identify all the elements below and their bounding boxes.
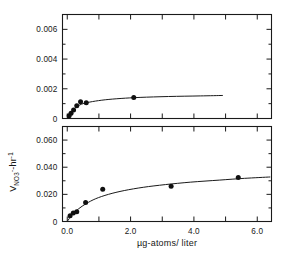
lower-panel-frame bbox=[63, 127, 272, 222]
y-axis-title-subscript: NO bbox=[13, 176, 20, 186]
y-ticklabel: 0.006 bbox=[36, 25, 58, 34]
y-ticklabel: 0.002 bbox=[36, 85, 58, 94]
data-point bbox=[74, 209, 79, 214]
y-ticklabel: 0.004 bbox=[36, 55, 58, 64]
data-point bbox=[131, 95, 136, 100]
y-axis-title: VNO3--hr-1 bbox=[7, 152, 20, 192]
data-point bbox=[100, 187, 105, 192]
lower-panel: 00.0200.0400.060 0.02.04.06.0 bbox=[36, 127, 271, 236]
data-point bbox=[74, 103, 79, 108]
lower-panel-data-points bbox=[68, 175, 241, 218]
data-point bbox=[78, 99, 83, 104]
y-axis-title-unit-exponent: -1 bbox=[7, 152, 14, 158]
y-ticklabel: 0 bbox=[53, 115, 58, 124]
upper-panel-fitted-curve bbox=[67, 95, 222, 118]
x-ticklabel: 4.0 bbox=[188, 227, 200, 236]
lower-panel-fitted-curve bbox=[67, 177, 270, 222]
y-ticklabel: 0 bbox=[53, 218, 58, 227]
y-ticklabel: 0.020 bbox=[36, 190, 58, 199]
data-point bbox=[169, 184, 174, 189]
y-axis-title-unit: -hr bbox=[8, 158, 18, 170]
data-point bbox=[84, 100, 89, 105]
x-ticklabel: 2.0 bbox=[125, 227, 137, 236]
upper-panel-y-ticklabels: 00.0020.0040.006 bbox=[36, 25, 58, 123]
data-point bbox=[236, 175, 241, 180]
upper-panel-ticks bbox=[63, 15, 272, 119]
data-point bbox=[71, 107, 76, 112]
x-axis-title: µg-atoms/ liter bbox=[137, 238, 197, 248]
two-panel-scatter-chart: 00.0020.0040.006 00.0200.0400.060 0.02.0… bbox=[0, 0, 286, 259]
svg-text:VNO3--hr-1: VNO3--hr-1 bbox=[7, 152, 20, 192]
figure-container: 00.0020.0040.006 00.0200.0400.060 0.02.0… bbox=[0, 0, 286, 259]
upper-panel: 00.0020.0040.006 bbox=[36, 15, 271, 124]
x-ticklabel: 0.0 bbox=[61, 227, 73, 236]
x-ticklabel: 6.0 bbox=[251, 227, 263, 236]
lower-panel-ticks bbox=[63, 127, 272, 222]
y-ticklabel: 0.060 bbox=[36, 136, 58, 145]
y-ticklabel: 0.040 bbox=[36, 163, 58, 172]
upper-panel-frame bbox=[63, 15, 272, 119]
data-point bbox=[83, 200, 88, 205]
lower-panel-x-ticklabels: 0.02.04.06.0 bbox=[61, 227, 263, 236]
lower-panel-y-ticklabels: 00.0200.0400.060 bbox=[36, 136, 58, 226]
